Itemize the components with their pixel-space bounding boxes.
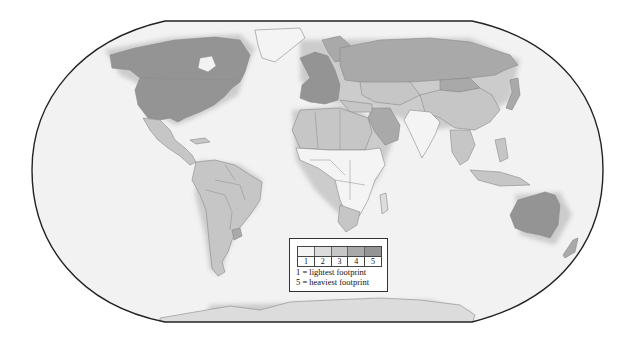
legend-swatch-5 [365,247,381,256]
legend: 1 2 3 4 5 1 = lightest footprint 5 = hea… [289,238,388,292]
legend-numbers: 1 2 3 4 5 [297,256,382,267]
legend-scale: 1 2 3 4 5 [297,246,382,267]
legend-swatch-1 [298,247,315,256]
legend-lightest-label: 1 = lightest footprint [296,267,366,277]
legend-swatch-2 [315,247,332,256]
legend-num-1: 1 [298,257,315,266]
legend-swatch-4 [348,247,365,256]
legend-heaviest-label: 5 = heaviest footprint [296,277,369,287]
legend-num-3: 3 [332,257,349,266]
legend-num-5: 5 [365,257,381,266]
legend-num-2: 2 [315,257,332,266]
legend-num-4: 4 [348,257,365,266]
legend-swatch-3 [332,247,349,256]
legend-swatches [297,246,382,256]
